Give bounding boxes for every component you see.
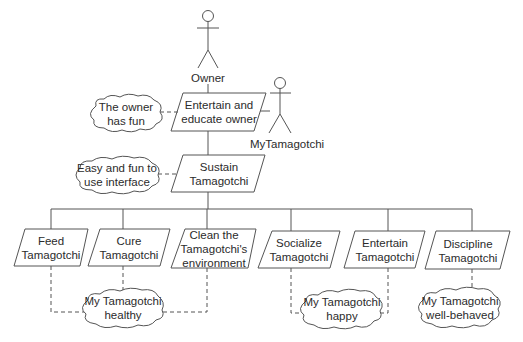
- goal-discipline-text: Discipline Tamagotchi: [426, 237, 510, 265]
- goal-feed-text: Feed Tamagotchi: [14, 234, 88, 262]
- softgoal-well-behaved-text: My Tamagotchi well-behaved: [418, 294, 502, 322]
- softgoal-happy-text: My Tamagotchi happy: [300, 295, 384, 323]
- owner-label: Owner: [188, 71, 228, 85]
- softgoal-owner-fun-text: The owner has fun: [90, 100, 162, 128]
- goal-clean-text: Clean the Tamagotchi's environment: [172, 228, 256, 270]
- goal-entertain-educate-owner-text: Entertain and educate owner: [172, 98, 266, 126]
- goal-cure-text: Cure Tamagotchi: [90, 234, 168, 262]
- owner-actor-icon: [197, 11, 219, 69]
- softgoal-easy-interface-text: Easy and fun to use interface: [74, 161, 160, 189]
- softgoal-healthy-text: My Tamagotchi healthy: [82, 294, 164, 322]
- mytamagotchi-actor-icon: [269, 78, 291, 134]
- goal-socialize-text: Socialize Tamagotchi: [259, 236, 339, 264]
- mytamagotchi-label: MyTamagotchi: [250, 137, 312, 151]
- goal-sustain-text: Sustain Tamagotchi: [172, 160, 266, 188]
- goal-entertain-text: Entertain Tamagotchi: [345, 236, 425, 264]
